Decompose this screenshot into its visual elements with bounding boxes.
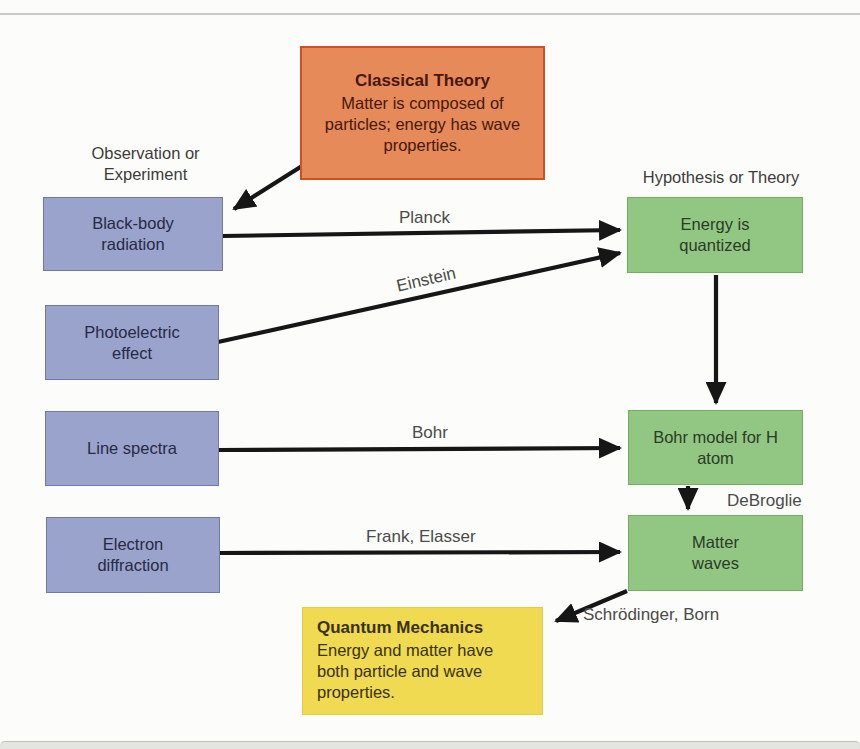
- arrow-label-schrodinger-born: Schrödinger, Born: [583, 605, 719, 625]
- classical-theory-box: Classical Theory Matter is composed of p…: [300, 46, 545, 180]
- box-photoelectric-effect: Photoelectric effect: [45, 305, 219, 380]
- box-label: Bohr model for H atom: [648, 427, 783, 468]
- box-black-body-radiation: Black-body radiation: [43, 197, 223, 271]
- quantum-mechanics-title: Quantum Mechanics: [317, 617, 483, 638]
- box-label: Matter waves: [676, 532, 756, 573]
- arrow-classical-to-blackbody: [234, 166, 302, 209]
- box-label: Electron diffraction: [78, 534, 188, 575]
- box-label: Line spectra: [87, 438, 177, 459]
- box-bohr-model: Bohr model for H atom: [628, 410, 803, 485]
- arrow-planck: [222, 230, 620, 236]
- box-label: Black-body radiation: [73, 213, 193, 254]
- arrow-label-debroglie: DeBroglie: [727, 491, 802, 511]
- arrow-einstein: [218, 253, 620, 342]
- box-electron-diffraction: Electron diffraction: [46, 517, 220, 593]
- box-label: Energy is quantized: [660, 214, 770, 255]
- box-line-spectra: Line spectra: [45, 411, 219, 486]
- box-matter-waves: Matter waves: [628, 515, 803, 591]
- box-energy-is-quantized: Energy is quantized: [627, 197, 803, 273]
- left-column-header: Observation or Experiment: [63, 143, 228, 186]
- box-label: Photoelectric effect: [67, 322, 197, 363]
- arrow-bohr: [218, 448, 620, 450]
- arrow-label-frank-elasser: Frank, Elasser: [366, 527, 476, 547]
- arrow-frank-elasser: [219, 552, 620, 553]
- arrow-label-bohr: Bohr: [412, 423, 448, 443]
- quantum-mechanics-body: Energy and matter have both particle and…: [317, 640, 522, 703]
- quantum-mechanics-box: Quantum Mechanics Energy and matter have…: [302, 607, 543, 715]
- classical-theory-title: Classical Theory: [355, 70, 490, 91]
- right-column-header: Hypothesis or Theory: [621, 167, 821, 188]
- flowchart-page: Observation or Experiment Hypothesis or …: [0, 0, 860, 749]
- classical-theory-body: Matter is composed of particles; energy …: [315, 93, 530, 156]
- arrow-label-planck: Planck: [399, 208, 450, 228]
